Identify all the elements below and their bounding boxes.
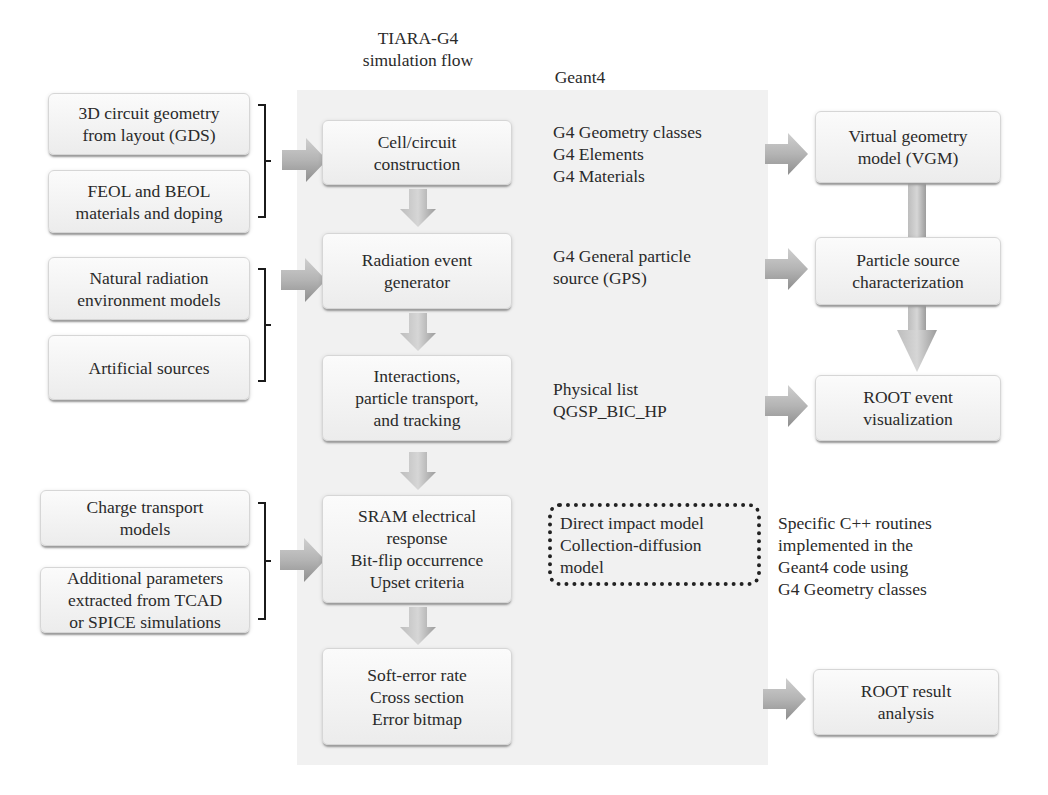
step-label: Cell/circuit construction — [374, 131, 461, 175]
input-artificial-sources: Artificial sources — [48, 335, 250, 400]
arrow-right-icon — [763, 678, 806, 720]
flow-title: TIARA-G4 simulation flow — [318, 27, 518, 71]
arrow-right-icon — [282, 138, 327, 182]
custom-models-label: Direct impact model Collection-diffusion… — [560, 512, 704, 578]
arrow-down-icon — [400, 189, 436, 227]
output-label: Virtual geometry model (VGM) — [849, 125, 968, 169]
arrow-right-icon — [765, 385, 808, 427]
geant4-note-gps: G4 General particle source (GPS) — [553, 245, 691, 289]
input-label: Charge transport models — [87, 496, 204, 540]
input-label: 3D circuit geometry from layout (GDS) — [79, 102, 220, 146]
input-label: Artificial sources — [89, 357, 210, 379]
output-root-result-analysis: ROOT result analysis — [813, 669, 999, 735]
input-feol-beol: FEOL and BEOL materials and doping — [48, 170, 250, 233]
output-label: ROOT result analysis — [861, 680, 952, 724]
arrow-right-icon — [280, 538, 325, 582]
arrow-right-icon — [765, 248, 808, 290]
arrow-right-icon — [281, 258, 326, 302]
step-label: Soft-error rate Cross section Error bitm… — [367, 664, 467, 730]
bracket-radiation-inputs — [258, 268, 266, 382]
step-cell-construction: Cell/circuit construction — [322, 120, 512, 185]
input-label: Natural radiation environment models — [77, 267, 220, 311]
arrow-right-icon — [765, 133, 808, 175]
step-label: Radiation event generator — [362, 249, 472, 293]
input-additional-parameters: Additional parameters extracted from TCA… — [40, 567, 250, 633]
step-label: SRAM electrical response Bit-flip occurr… — [351, 505, 484, 593]
step-label: Interactions, particle transport, and tr… — [355, 365, 478, 431]
geant4-note-physics-list: Physical list QGSP_BIC_HP — [553, 378, 667, 422]
bracket-electrical-inputs — [258, 502, 266, 620]
step-radiation-generator: Radiation event generator — [322, 233, 512, 309]
input-label: Additional parameters extracted from TCA… — [67, 567, 223, 633]
output-label: Particle source characterization — [852, 249, 964, 293]
input-circuit-geometry: 3D circuit geometry from layout (GDS) — [48, 93, 250, 155]
arrow-down-icon — [400, 607, 436, 645]
custom-models-note: Specific C++ routines implemented in the… — [778, 512, 932, 600]
output-vgm: Virtual geometry model (VGM) — [815, 111, 1001, 183]
geant4-title: Geant4 — [530, 66, 630, 88]
step-sram-response: SRAM electrical response Bit-flip occurr… — [322, 495, 512, 603]
output-particle-source: Particle source characterization — [815, 237, 1001, 305]
input-label: FEOL and BEOL materials and doping — [76, 180, 223, 224]
bracket-geometry-inputs — [258, 104, 266, 218]
geant4-note-geometry: G4 Geometry classes G4 Elements G4 Mater… — [553, 121, 702, 187]
step-interactions-tracking: Interactions, particle transport, and tr… — [322, 355, 512, 441]
arrow-down-icon — [400, 313, 436, 351]
step-soft-error-rate: Soft-error rate Cross section Error bitm… — [322, 648, 512, 745]
output-label: ROOT event visualization — [863, 386, 953, 430]
input-natural-radiation: Natural radiation environment models — [48, 257, 250, 320]
input-charge-transport: Charge transport models — [40, 490, 250, 546]
output-root-event-visualization: ROOT event visualization — [815, 375, 1001, 441]
arrow-down-icon — [400, 452, 436, 490]
